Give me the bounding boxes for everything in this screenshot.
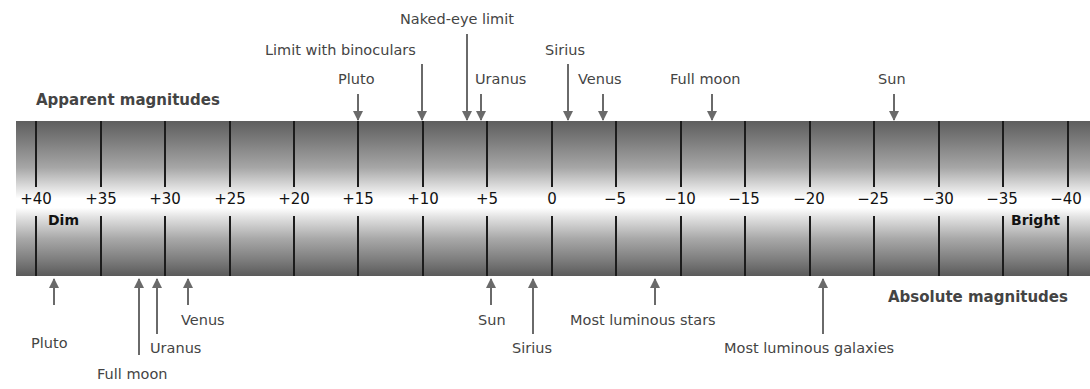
arrow-down-icon <box>480 94 482 120</box>
tick-line-plus-15 <box>357 121 359 187</box>
apparent-label-sun: Sun <box>878 71 906 87</box>
apparent-label-venus: Venus <box>578 71 622 87</box>
tick-line-0 <box>551 216 553 276</box>
arrow-up-icon <box>822 279 824 334</box>
absolute-label-sun: Sun <box>478 312 506 328</box>
arrow-up-icon <box>138 279 140 355</box>
arrow-down-icon <box>602 94 604 120</box>
apparent-label-full-moon: Full moon <box>670 71 740 87</box>
tick-label: +25 <box>214 190 246 208</box>
arrow-up-icon <box>490 279 492 305</box>
arrow-up-icon <box>156 279 158 334</box>
tick-label: −35 <box>986 190 1018 208</box>
tick-line-minus-20 <box>809 121 811 187</box>
absolute-magnitudes-title: Absolute magnitudes <box>888 288 1068 306</box>
arrow-up-icon <box>654 279 656 305</box>
apparent-label-naked-eye: Naked-eye limit <box>400 11 514 27</box>
arrow-up-icon <box>53 279 55 305</box>
tick-line-plus-40 <box>35 121 37 187</box>
absolute-label-full-moon: Full moon <box>97 366 167 382</box>
arrow-down-icon <box>421 64 423 120</box>
tick-label: −30 <box>922 190 954 208</box>
absolute-label-venus: Venus <box>181 312 225 328</box>
tick-line-minus-20 <box>809 216 811 276</box>
tick-line-plus-15 <box>357 216 359 276</box>
tick-line-minus-40 <box>1067 216 1069 276</box>
tick-line-plus-35 <box>100 121 102 187</box>
tick-label: +40 <box>20 190 52 208</box>
tick-line-plus-35 <box>100 216 102 276</box>
tick-line-plus-10 <box>422 216 424 276</box>
apparent-magnitudes-title: Apparent magnitudes <box>36 91 220 109</box>
arrow-down-icon <box>567 64 569 120</box>
tick-line-minus-10 <box>680 121 682 187</box>
tick-line-minus-25 <box>873 216 875 276</box>
tick-line-plus-20 <box>293 216 295 276</box>
tick-line-minus-30 <box>938 216 940 276</box>
arrow-down-icon <box>893 94 895 120</box>
tick-line-minus-35 <box>1002 121 1004 187</box>
tick-label: −10 <box>664 190 696 208</box>
bright-label: Bright <box>1011 212 1060 228</box>
tick-line-plus-25 <box>229 216 231 276</box>
tick-line-0 <box>551 121 553 187</box>
tick-label: −40 <box>1050 190 1082 208</box>
magnitude-scale-diagram: Apparent magnitudes Absolute magnitudes … <box>0 0 1090 389</box>
tick-line-plus-30 <box>164 121 166 187</box>
tick-line-plus-5 <box>486 121 488 187</box>
dim-label: Dim <box>48 212 79 228</box>
tick-line-plus-30 <box>164 216 166 276</box>
tick-line-minus-5 <box>615 216 617 276</box>
tick-line-minus-25 <box>873 121 875 187</box>
absolute-label-most-luminous-galaxies: Most luminous galaxies <box>724 340 894 356</box>
tick-line-plus-40 <box>35 216 37 276</box>
tick-label: +35 <box>85 190 117 208</box>
tick-label: +20 <box>278 190 310 208</box>
arrow-down-icon <box>466 34 468 120</box>
tick-label: −5 <box>604 190 626 208</box>
tick-label: +10 <box>407 190 439 208</box>
tick-line-minus-15 <box>744 216 746 276</box>
arrow-down-icon <box>357 94 359 120</box>
tick-line-minus-35 <box>1002 216 1004 276</box>
absolute-label-uranus: Uranus <box>150 340 201 356</box>
apparent-label-sirius: Sirius <box>545 42 585 58</box>
tick-label: +15 <box>342 190 374 208</box>
apparent-label-binoculars: Limit with binoculars <box>265 42 416 58</box>
tick-line-plus-25 <box>229 121 231 187</box>
tick-line-minus-10 <box>680 216 682 276</box>
tick-line-plus-20 <box>293 121 295 187</box>
tick-label: −15 <box>728 190 760 208</box>
tick-label: −20 <box>793 190 825 208</box>
apparent-label-pluto: Pluto <box>338 71 375 87</box>
tick-line-minus-30 <box>938 121 940 187</box>
tick-label: +5 <box>476 190 498 208</box>
apparent-label-uranus: Uranus <box>475 71 526 87</box>
arrow-down-icon <box>711 94 713 120</box>
tick-line-plus-10 <box>422 121 424 187</box>
tick-label: +30 <box>149 190 181 208</box>
absolute-label-most-luminous-stars: Most luminous stars <box>570 312 716 328</box>
arrow-up-icon <box>187 279 189 305</box>
arrow-up-icon <box>532 279 534 334</box>
tick-line-minus-5 <box>615 121 617 187</box>
absolute-label-pluto: Pluto <box>31 335 68 351</box>
tick-label: 0 <box>547 190 557 208</box>
tick-line-plus-5 <box>486 216 488 276</box>
tick-line-minus-15 <box>744 121 746 187</box>
absolute-label-sirius: Sirius <box>512 340 552 356</box>
tick-line-minus-40 <box>1067 121 1069 187</box>
tick-label: −25 <box>857 190 889 208</box>
